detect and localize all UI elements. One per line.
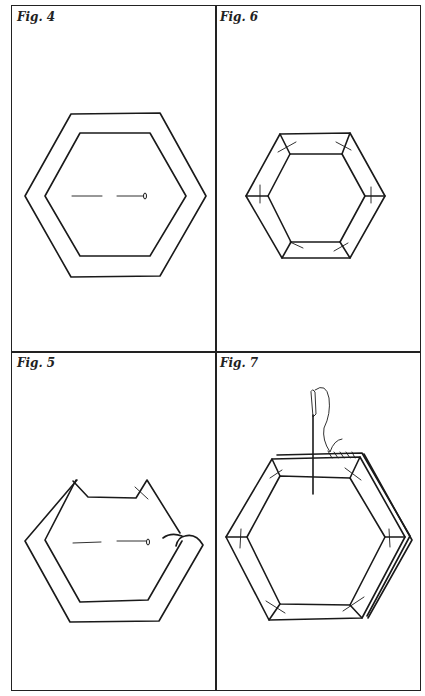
illustrations [0, 0, 425, 696]
fig4-hexagon-drawing [25, 113, 206, 277]
fig7-hexagon-drawing [226, 387, 412, 620]
fig5-hexagon-drawing [25, 480, 203, 622]
fig6-hexagon-drawing [246, 133, 385, 258]
